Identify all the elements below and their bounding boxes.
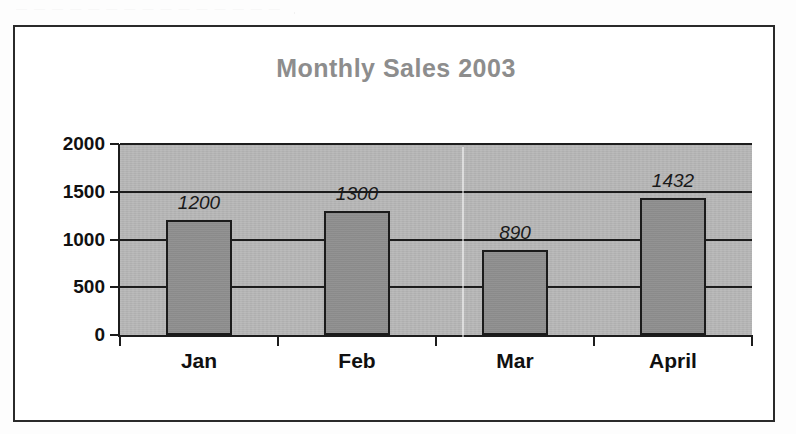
bar-april (640, 198, 706, 335)
bar-mar (482, 250, 548, 335)
y-axis-tick-500 (110, 286, 119, 288)
y-axis-tick-label-0: 0 (15, 324, 105, 346)
bar-texture (326, 213, 388, 333)
data-label-jan: 1200 (178, 192, 220, 214)
x-axis-tick-1 (277, 335, 279, 346)
chart-frame: Monthly Sales 2003 0500100015002000 JanF… (13, 25, 775, 422)
x-axis-tick-2 (435, 335, 437, 346)
y-axis-tick-label-1500: 1500 (15, 181, 105, 203)
data-label-april: 1432 (652, 170, 694, 192)
category-label-april: April (649, 349, 697, 373)
bar-texture (484, 252, 546, 333)
x-axis-tick-0 (119, 335, 121, 346)
x-axis-tick-4 (751, 335, 753, 346)
y-axis-tick-1000 (110, 239, 119, 241)
category-label-mar: Mar (496, 349, 533, 373)
data-label-feb: 1300 (336, 183, 378, 205)
category-label-jan: Jan (181, 349, 217, 373)
scanned-page: — — — — — — — — — — — — — — — Monthly Sa… (0, 0, 796, 434)
bar-texture (642, 200, 704, 333)
bar-texture (168, 222, 230, 333)
gridline-2000 (120, 143, 752, 145)
y-axis-line (118, 144, 120, 337)
x-axis-tick-3 (593, 335, 595, 346)
bar-feb (324, 211, 390, 335)
bar-jan (166, 220, 232, 335)
data-label-mar: 890 (499, 222, 531, 244)
category-label-feb: Feb (338, 349, 375, 373)
cutoff-text-above-frame: — — — — — — — — — — — — — — — (16, 0, 716, 16)
y-axis-tick-0 (110, 334, 119, 336)
chart-title: Monthly Sales 2003 (15, 54, 777, 83)
y-axis-tick-label-1000: 1000 (15, 229, 105, 251)
y-axis-tick-label-2000: 2000 (15, 133, 105, 155)
y-axis-tick-1500 (110, 191, 119, 193)
y-axis-tick-2000 (110, 143, 119, 145)
y-axis-tick-label-500: 500 (15, 276, 105, 298)
